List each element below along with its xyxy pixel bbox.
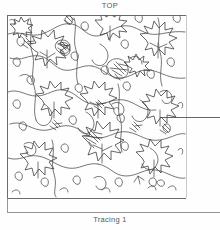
flower-cluster <box>55 40 70 55</box>
pattern-drawing <box>0 0 220 230</box>
flower-cluster <box>130 122 142 132</box>
maple-leaf <box>28 30 68 66</box>
maple-leaf <box>80 81 117 116</box>
maple-leaf <box>20 141 57 176</box>
maple-leaf <box>36 81 73 116</box>
maple-leaf <box>82 121 124 161</box>
flower-cluster <box>160 124 170 134</box>
vine-network <box>8 18 186 197</box>
bud-group <box>13 14 180 186</box>
maple-leaf <box>136 139 173 174</box>
flower-cluster <box>50 120 62 130</box>
flower-cluster <box>107 59 129 80</box>
tracing-page: TOP <box>0 0 220 230</box>
tracing-caption: Tracing 1 <box>0 215 220 225</box>
maple-leaf <box>142 89 179 124</box>
accent-marks <box>10 19 183 194</box>
